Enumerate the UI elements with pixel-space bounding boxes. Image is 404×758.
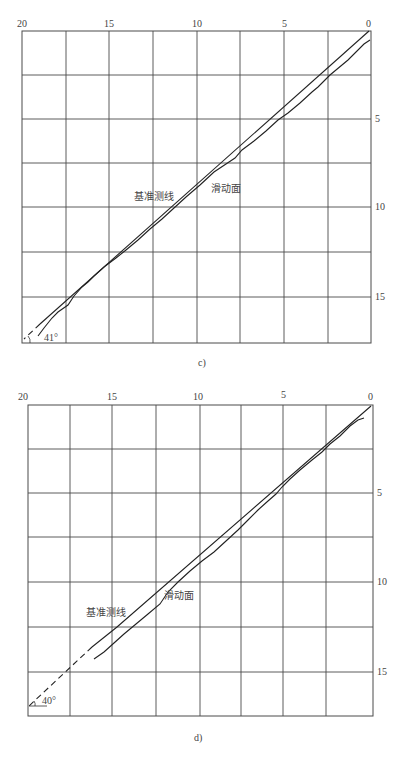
- panel-d-grid: [28, 405, 373, 716]
- panel-d-xtick-15: 15: [107, 391, 117, 402]
- panel-d-ytick-10: 10: [377, 576, 387, 587]
- panel-d-ytick-15: 15: [377, 666, 387, 677]
- panel-d-xtick-20: 20: [18, 391, 28, 402]
- panel-d-slip-label: 滑动面: [164, 590, 194, 601]
- panel-d-reference-line: [92, 406, 371, 647]
- panel-d-slip-surface: [94, 418, 364, 659]
- panel-d-reference-line-dashed: [29, 647, 92, 706]
- panel-d-diagram: 20 15 10 5 0 5 10 15 基准测线 滑动面 40° d): [0, 0, 404, 758]
- panel-d-xtick-0: 0: [368, 391, 373, 402]
- panel-d-angle-label: 40°: [42, 695, 56, 706]
- panel-d-reference-label: 基准测线: [86, 606, 126, 618]
- panel-d-frame: [28, 405, 373, 716]
- panel-d-xtick-5: 5: [281, 389, 286, 400]
- panel-d-caption: d): [194, 732, 202, 744]
- panel-d-xtick-10: 10: [193, 391, 203, 402]
- panel-d-ytick-5: 5: [377, 487, 382, 498]
